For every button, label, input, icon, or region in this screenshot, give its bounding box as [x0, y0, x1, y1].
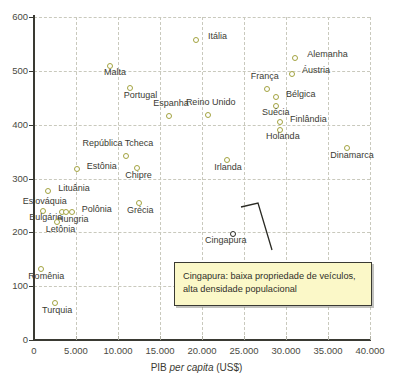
y-axis-tick-mark — [29, 340, 34, 341]
y-axis-tick-mark — [29, 71, 34, 72]
x-axis-tick-label: 30.000 — [264, 345, 308, 356]
data-point-label: Espanha — [153, 98, 189, 108]
y-axis-tick-mark — [29, 286, 34, 287]
x-axis-tick-label: 20.000 — [180, 345, 224, 356]
y-axis-tick-label: 100 — [4, 280, 28, 291]
data-point-label: Áustria — [302, 65, 330, 75]
x-axis-tick-label: 40.000 — [348, 345, 392, 356]
x-axis-tick-label: 25.000 — [222, 345, 266, 356]
y-axis-tick-label: 500 — [4, 65, 28, 76]
x-axis-tick-mark — [244, 336, 245, 340]
data-point — [205, 112, 211, 118]
data-point-label: França — [251, 71, 279, 81]
data-point-label: Malta — [104, 67, 126, 77]
y-axis-tick-label: 0 — [4, 334, 28, 345]
y-axis-tick-mark — [29, 179, 34, 180]
x-axis-tick-mark — [202, 336, 203, 340]
data-point — [289, 71, 295, 77]
data-point-label: Turquia — [42, 305, 72, 315]
data-point-label: Irlanda — [214, 162, 242, 172]
x-axis-tick-label: 0 — [12, 345, 56, 356]
x-axis-tick-mark — [76, 336, 77, 340]
y-axis-tick-label: 600 — [4, 11, 28, 22]
annotation-line-1: Cingapura: baixa propriedade de veículos… — [183, 270, 363, 283]
x-axis-tick-label: 15.000 — [138, 345, 182, 356]
x-axis-title-suffix: (US$) — [213, 362, 242, 373]
x-axis-tick-mark — [328, 336, 329, 340]
data-point-label: Cingapura — [205, 235, 247, 245]
x-axis-tick-label: 5.000 — [54, 345, 98, 356]
y-axis-tick-mark — [29, 17, 34, 18]
data-point-label: Reino Unido — [186, 97, 236, 107]
data-point-label: Estônia — [87, 161, 117, 171]
data-point-label: Eslováquia — [23, 196, 67, 206]
y-axis-tick-mark — [29, 232, 34, 233]
scatter-chart: 0100200300400500600 05.00010.00015.00020… — [0, 0, 393, 383]
data-point-label: Lituânia — [58, 183, 90, 193]
y-axis-tick-label: 300 — [4, 173, 28, 184]
gridline-horizontal — [34, 125, 370, 126]
gridline-horizontal — [34, 179, 370, 180]
data-point-label: Polônia — [82, 204, 112, 214]
annotation-callout: Cingapura: baixa propriedade de veículos… — [174, 262, 372, 306]
data-point-label: Finlândia — [290, 114, 327, 124]
x-axis-title-italic: per capita — [170, 362, 214, 373]
x-axis-tick-mark — [160, 336, 161, 340]
data-point-label: Alemanha — [307, 49, 348, 59]
data-point-label: Romênia — [28, 271, 64, 281]
data-point-label: Chipre — [125, 170, 152, 180]
data-point — [264, 86, 270, 92]
data-point-label: Itália — [208, 31, 227, 41]
data-point-label: Grécia — [127, 205, 154, 215]
x-axis-tick-mark — [370, 336, 371, 340]
gridline-horizontal — [34, 17, 370, 18]
data-point-label: Bélgica — [286, 89, 316, 99]
x-axis-title-prefix: PIB — [151, 362, 170, 373]
y-axis-tick-label: 400 — [4, 119, 28, 130]
data-point-label: Suécia — [262, 107, 290, 117]
data-point-label: República Tcheca — [82, 138, 153, 148]
y-axis-tick-mark — [29, 125, 34, 126]
data-point-label: Dinamarca — [330, 150, 374, 160]
data-point-label: Holanda — [266, 131, 300, 141]
y-axis-tick-label: 200 — [4, 226, 28, 237]
x-axis-title: PIB per capita (US$) — [0, 362, 393, 373]
x-axis-tick-label: 35.000 — [306, 345, 350, 356]
x-axis-tick-mark — [118, 336, 119, 340]
data-point-label: Letônia — [46, 224, 76, 234]
x-axis-tick-label: 10.000 — [96, 345, 140, 356]
annotation-line-2: alta densidade populacional — [183, 283, 363, 296]
gridline-horizontal — [34, 232, 370, 233]
x-axis-tick-mark — [286, 336, 287, 340]
